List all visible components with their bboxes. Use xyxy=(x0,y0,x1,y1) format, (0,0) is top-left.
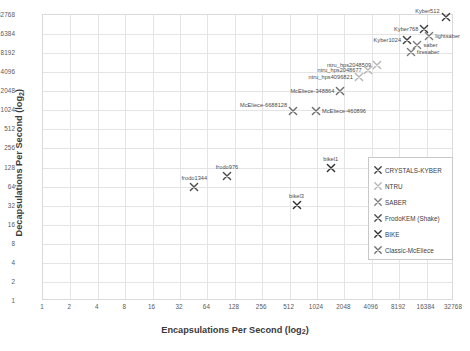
data-point-label: bikel3 xyxy=(289,193,304,199)
y-tick-label: 512 xyxy=(0,125,15,132)
scatter-chart: Kyber512Kyber768Kyber1024ntru_hps2048509… xyxy=(0,0,470,351)
y-tick-label: 64 xyxy=(0,182,15,189)
grid-line-vertical xyxy=(180,15,181,299)
grid-line-horizontal xyxy=(43,72,452,73)
data-point-marker xyxy=(403,36,412,45)
y-axis-title: Decapsulations Per Second (log2) xyxy=(14,53,25,273)
data-point-label: ntru_hps2048677 xyxy=(317,67,361,73)
y-tick-label: 2 xyxy=(0,277,15,284)
data-point-label: lightsaber xyxy=(435,33,460,39)
y-axis-title-subscript: 2 xyxy=(18,92,26,96)
x-tick-label: 32768 xyxy=(433,303,470,310)
x-axis-title: Encapsulations Per Second (log2) xyxy=(0,325,470,336)
grid-line-vertical xyxy=(70,15,71,299)
legend-item-label: Classic-McEliece xyxy=(385,247,434,254)
data-point-marker xyxy=(441,13,450,22)
y-tick-label: 1024 xyxy=(0,106,15,113)
data-point-marker xyxy=(354,72,363,81)
data-point-label: frodo1344 xyxy=(182,175,208,181)
grid-line-horizontal xyxy=(43,282,452,283)
y-tick-label: 16384 xyxy=(0,30,15,37)
legend-marker-x-icon xyxy=(374,198,382,206)
legend-item-label: CRYSTALS-KYBER xyxy=(385,167,442,174)
data-point-label: McEliece-6688128 xyxy=(240,102,287,108)
y-tick-label: 8192 xyxy=(0,49,15,56)
y-tick-label: 2048 xyxy=(0,87,15,94)
legend-item-label: BIKE xyxy=(385,231,400,238)
legend-marker-x-icon xyxy=(374,182,382,190)
legend-item-label: NTRU xyxy=(385,183,403,190)
legend-item[interactable]: Classic-McEliece xyxy=(369,242,452,258)
data-point-label: Kyber768 xyxy=(394,26,418,32)
legend-marker-x-icon xyxy=(374,214,382,222)
grid-line-vertical xyxy=(153,15,154,299)
grid-line-vertical xyxy=(344,15,345,299)
legend-item[interactable]: BIKE xyxy=(369,226,452,242)
y-axis-title-main: Decapsulations Per Second (log xyxy=(14,96,24,236)
grid-line-vertical xyxy=(235,15,236,299)
data-point-label: McEliece-460896 xyxy=(322,108,366,114)
grid-line-vertical xyxy=(290,15,291,299)
data-point-label: firesaber xyxy=(417,49,439,55)
grid-line-horizontal xyxy=(43,129,452,130)
grid-line-horizontal xyxy=(43,148,452,149)
data-point-marker xyxy=(373,60,382,69)
y-tick-label: 4096 xyxy=(0,68,15,75)
data-point-label: ntru_hps4096821 xyxy=(309,74,353,80)
legend-item[interactable]: FrodoKEM (Shake) xyxy=(369,210,452,226)
legend-marker-x-icon xyxy=(374,246,382,254)
legend-item[interactable]: NTRU xyxy=(369,178,452,194)
legend-item-label: SABER xyxy=(385,199,407,206)
data-point-marker xyxy=(222,171,231,180)
x-axis-title-tail: ) xyxy=(306,325,309,335)
data-point-label: Kyber512 xyxy=(415,8,439,14)
grid-line-horizontal xyxy=(43,263,452,264)
legend-item[interactable]: CRYSTALS-KYBER xyxy=(369,162,452,178)
y-tick-label: 32768 xyxy=(0,11,15,18)
data-point-marker xyxy=(406,47,415,56)
grid-line-horizontal xyxy=(43,110,452,111)
legend-item[interactable]: SABER xyxy=(369,194,452,210)
grid-line-horizontal xyxy=(43,91,452,92)
grid-line-vertical xyxy=(207,15,208,299)
legend-item-label: FrodoKEM (Shake) xyxy=(385,215,440,222)
chart-legend: CRYSTALS-KYBERNTRUSABERFrodoKEM (Shake)B… xyxy=(368,157,453,260)
y-tick-label: 1 xyxy=(0,297,15,304)
y-tick-label: 128 xyxy=(0,163,15,170)
y-tick-label: 16 xyxy=(0,220,15,227)
grid-line-vertical xyxy=(98,15,99,299)
data-point-label: Kyber1024 xyxy=(374,37,402,43)
grid-line-vertical xyxy=(317,15,318,299)
legend-marker-x-icon xyxy=(374,230,382,238)
y-tick-label: 4 xyxy=(0,258,15,265)
data-point-label: frodo976 xyxy=(216,164,238,170)
y-tick-label: 256 xyxy=(0,144,15,151)
grid-line-horizontal xyxy=(43,34,452,35)
data-point-label: saber xyxy=(423,42,437,48)
data-point-label: McEliece-348864 xyxy=(290,88,334,94)
legend-marker-x-icon xyxy=(374,166,382,174)
grid-line-vertical xyxy=(262,15,263,299)
grid-line-vertical xyxy=(125,15,126,299)
y-tick-label: 32 xyxy=(0,201,15,208)
y-tick-label: 8 xyxy=(0,239,15,246)
grid-line-horizontal xyxy=(43,53,452,54)
y-axis-title-tail: ) xyxy=(14,89,24,92)
data-point-label: bikel1 xyxy=(323,156,338,162)
x-axis-title-main: Encapsulations Per Second (log xyxy=(161,325,301,335)
